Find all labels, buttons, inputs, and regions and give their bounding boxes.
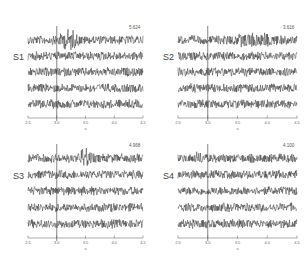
amplitude-label: 4.968 xyxy=(129,143,140,148)
waveform-trace xyxy=(178,152,297,163)
waveform-trace xyxy=(28,187,143,196)
waveform-trace xyxy=(178,170,297,179)
waveform-trace xyxy=(28,67,143,76)
waveform-trace xyxy=(178,219,297,228)
x-tick-label: 3.5 xyxy=(235,240,241,245)
x-tick-label: 3.0 xyxy=(54,120,60,125)
x-axis-label: s xyxy=(237,126,239,131)
x-tick-label: 4.5 xyxy=(294,240,300,245)
waveform-trace xyxy=(28,84,143,93)
waveform-trace xyxy=(178,100,297,109)
waveform-trace xyxy=(178,186,297,195)
station-label: S1 xyxy=(13,52,24,62)
amplitude-label: 3.616 xyxy=(283,25,294,30)
station-label: S2 xyxy=(163,52,174,62)
amplitude-label: 5.624 xyxy=(129,25,140,30)
x-tick-label: 4.5 xyxy=(140,120,146,125)
waveform-trace xyxy=(178,33,297,47)
waveform-trace xyxy=(28,51,143,60)
waveform-trace xyxy=(28,29,143,50)
waveform-trace xyxy=(28,203,143,212)
seismogram-panel-s2: 2.53.03.54.04.5s xyxy=(174,30,301,136)
x-tick-label: 3.5 xyxy=(235,120,241,125)
waveform-trace xyxy=(28,219,143,228)
x-tick-label: 2.5 xyxy=(25,240,31,245)
x-tick-label: 3.0 xyxy=(205,120,211,125)
x-tick-label: 4.0 xyxy=(264,240,270,245)
x-axis-label: s xyxy=(85,126,87,131)
x-tick-label: 4.0 xyxy=(111,120,117,125)
x-tick-label: 3.5 xyxy=(83,120,89,125)
seismogram-panel-s3: 2.53.03.54.04.5s xyxy=(24,148,147,256)
waveform-trace xyxy=(28,148,143,166)
x-tick-label: 2.5 xyxy=(175,120,181,125)
x-tick-label: 4.0 xyxy=(264,120,270,125)
x-tick-label: 2.5 xyxy=(25,120,31,125)
x-tick-label: 3.5 xyxy=(83,240,89,245)
waveform-trace xyxy=(178,68,297,77)
waveform-trace xyxy=(178,52,297,61)
station-label: S4 xyxy=(163,171,174,181)
amplitude-label: 4.100 xyxy=(283,143,294,148)
x-tick-label: 3.0 xyxy=(205,240,211,245)
x-tick-label: 3.0 xyxy=(54,240,60,245)
x-axis-label: s xyxy=(237,246,239,251)
x-axis-label: s xyxy=(85,246,87,251)
waveform-trace xyxy=(178,83,297,92)
waveform-trace xyxy=(28,99,143,108)
x-tick-label: 4.0 xyxy=(111,240,117,245)
waveform-trace xyxy=(178,203,297,212)
seismogram-panel-s1: 2.53.03.54.04.5s xyxy=(24,30,147,136)
x-tick-label: 2.5 xyxy=(175,240,181,245)
waveform-trace xyxy=(28,170,143,179)
x-tick-label: 4.5 xyxy=(140,240,146,245)
seismogram-panel-s4: 2.53.03.54.04.5s xyxy=(174,148,301,256)
x-tick-label: 4.5 xyxy=(294,120,300,125)
station-label: S3 xyxy=(13,171,24,181)
